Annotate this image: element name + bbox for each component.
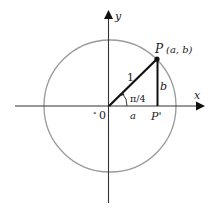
y-axis-arrow-icon xyxy=(104,10,113,19)
unit-circle-diagram: y x P (a, b) 1 b π/4 a P' ° 0 xyxy=(0,0,215,214)
opposite-label: b xyxy=(160,80,167,93)
hypotenuse-label: 1 xyxy=(127,71,134,84)
point-p-label: P xyxy=(154,42,164,56)
point-p-coords: (a, b) xyxy=(166,44,193,55)
angle-arc xyxy=(123,94,128,107)
y-axis-label: y xyxy=(114,10,122,23)
origin-label: 0 xyxy=(99,109,106,122)
x-axis-arrow-icon xyxy=(196,102,205,111)
x-axis-label: x xyxy=(194,89,201,102)
origin-mark: ° xyxy=(93,111,97,119)
projection-label: P' xyxy=(150,110,161,123)
adjacent-label: a xyxy=(130,110,136,121)
point-p-dot xyxy=(154,56,159,61)
angle-label: π/4 xyxy=(130,93,146,104)
